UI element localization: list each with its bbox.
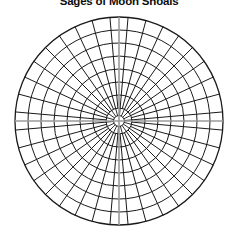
grid-spoke-27 — [15, 122, 106, 130]
hub-spoke-4 — [124, 116, 131, 119]
grid-spoke-18 — [120, 134, 128, 225]
hub-spoke-2 — [121, 109, 124, 116]
grid-spoke-11 — [132, 124, 220, 148]
grid-spoke-15 — [126, 132, 178, 207]
grid-spoke-31 — [34, 61, 109, 113]
grid-spoke-1 — [120, 17, 128, 108]
hub-spoke-7 — [123, 124, 129, 128]
hub-spoke-8 — [122, 125, 126, 131]
hub-spoke-13 — [107, 123, 114, 126]
hub-spoke-12 — [110, 125, 115, 130]
grid-spoke-9 — [132, 112, 223, 120]
hub-spoke-15 — [106, 118, 113, 120]
grid-spoke-36 — [110, 17, 118, 108]
grid-spoke-4 — [126, 36, 178, 111]
grid-spoke-26 — [19, 124, 107, 148]
hub-spoke-18 — [116, 108, 118, 115]
grid-spoke-22 — [59, 132, 111, 207]
grid-spoke-6 — [130, 61, 205, 113]
grid-spoke-8 — [132, 94, 220, 118]
grid-spoke-10 — [132, 122, 223, 130]
grid-spoke-17 — [122, 134, 146, 222]
grid-spoke-28 — [15, 112, 106, 120]
grid-spoke-19 — [110, 134, 118, 225]
hub-spoke-6 — [124, 122, 131, 124]
hub-spoke-3 — [123, 112, 128, 117]
grid-spoke-13 — [130, 128, 205, 180]
chart-page: Sages of Moon Shoals — [0, 0, 238, 238]
grid-spoke-2 — [122, 21, 146, 109]
hub-spoke-16 — [108, 114, 114, 118]
grid-spoke-29 — [19, 94, 107, 118]
grid-spoke-20 — [92, 134, 116, 222]
hub-spoke-9 — [120, 126, 122, 133]
hub-spoke-11 — [114, 126, 117, 133]
grid-spoke-24 — [34, 128, 109, 180]
grid-spoke-33 — [59, 36, 111, 111]
hub-spoke-17 — [112, 110, 116, 116]
polar-grid-chart — [0, 0, 238, 238]
grid-spoke-35 — [92, 21, 116, 109]
